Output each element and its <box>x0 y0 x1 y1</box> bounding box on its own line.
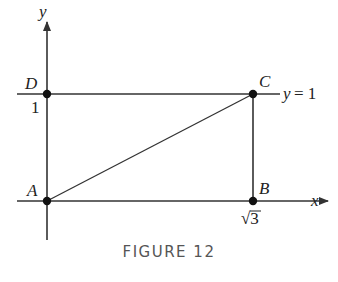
line-label-y: y <box>281 84 291 103</box>
point-b <box>249 197 257 205</box>
y-axis-label: y <box>37 2 47 21</box>
point-a <box>43 197 51 205</box>
x-axis-label: x <box>310 191 319 210</box>
point-c <box>249 90 257 98</box>
y-tick-1: 1 <box>31 98 40 117</box>
figure-caption: FIGURE 12 <box>0 243 338 261</box>
label-b: B <box>259 179 270 198</box>
label-c: C <box>259 72 271 91</box>
rectangle-diagram: y x D 1 A C B y = 1 √3 <box>0 0 338 282</box>
label-d: D <box>24 74 38 93</box>
point-d <box>43 90 51 98</box>
line-label-eq: = 1 <box>294 84 316 103</box>
label-a: A <box>26 181 38 200</box>
x-tick-sqrt3: √3 <box>241 209 259 228</box>
diagonal-ac <box>47 94 253 201</box>
